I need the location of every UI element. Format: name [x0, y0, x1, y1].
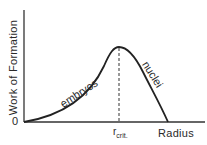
rcrit-label: rcrit. [113, 127, 128, 139]
y-axis-label: Work of Formation [8, 13, 19, 123]
x-axis-label: Radius [158, 128, 194, 139]
diagram-canvas [0, 0, 207, 145]
origin-label: 0 [12, 116, 18, 127]
rcrit-subscript: crit. [116, 132, 127, 139]
